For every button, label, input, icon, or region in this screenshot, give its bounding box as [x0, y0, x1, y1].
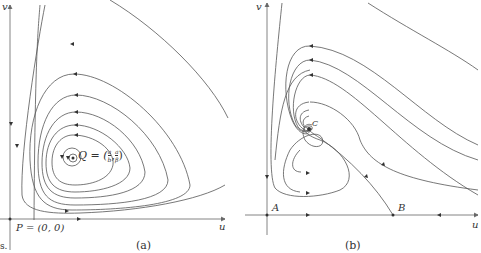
- phase-portrait-figure: [0, 0, 481, 253]
- panel-a-orbits: [22, 0, 228, 220]
- panel-b-y-axis-label: v: [256, 2, 262, 12]
- left-fragment-text: s.: [0, 242, 7, 251]
- panel-a-caption: (a): [136, 240, 151, 251]
- panel-b-trajectories: [271, 3, 478, 215]
- panel-b-caption: (b): [345, 240, 361, 251]
- panel-b-x-axis-label: u: [472, 220, 478, 230]
- point-b-label: B: [398, 203, 405, 213]
- point-c-label: C: [312, 120, 318, 128]
- panel-a-origin-label: P = (0, 0): [16, 223, 64, 233]
- panel-a-center-label: Q = (ab,aβ): [78, 148, 123, 163]
- panel-a-x-axis-label: u: [219, 222, 225, 232]
- panel-b-arrows: [265, 44, 441, 217]
- point-a-label: A: [272, 203, 279, 213]
- panel-a-y-axis-label: v: [2, 2, 8, 12]
